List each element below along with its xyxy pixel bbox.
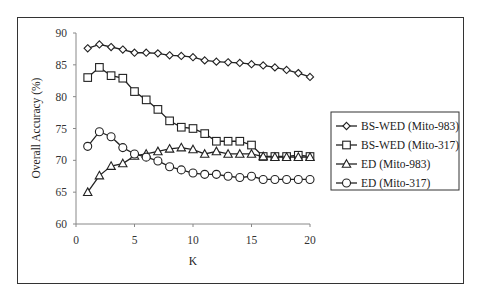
legend-label: ED (Mito-983) xyxy=(361,158,430,171)
circle-marker xyxy=(224,172,232,180)
circle-marker xyxy=(142,153,150,161)
diamond-marker xyxy=(213,58,220,65)
diamond-marker xyxy=(131,49,138,56)
series-circle xyxy=(84,128,314,184)
square-marker xyxy=(213,137,221,145)
y-tick-label: 60 xyxy=(56,218,68,230)
diamond-marker xyxy=(119,46,126,53)
x-tick-label: 15 xyxy=(246,234,258,246)
legend-label: ED (Mito-317) xyxy=(361,177,430,190)
square-marker xyxy=(131,88,139,96)
diamond-marker xyxy=(283,66,290,73)
circle-marker xyxy=(166,163,174,171)
diamond-marker xyxy=(96,41,103,48)
circle-marker xyxy=(177,166,185,174)
diamond-marker xyxy=(236,59,243,66)
circle-marker xyxy=(248,172,256,180)
diamond-marker xyxy=(248,61,255,68)
diamond-marker xyxy=(189,54,196,61)
x-tick-label: 20 xyxy=(304,234,316,246)
diamond-marker xyxy=(84,45,91,52)
axes: 6065707580859005101520 xyxy=(56,27,317,246)
square-marker xyxy=(107,72,115,80)
legend-label: BS-WED (Mito-983) xyxy=(361,120,459,133)
square-marker xyxy=(154,106,162,114)
diamond-marker xyxy=(260,62,267,69)
diamond-marker xyxy=(108,43,115,50)
circle-marker xyxy=(95,128,103,136)
circle-marker xyxy=(119,144,127,152)
square-marker xyxy=(189,125,197,133)
y-tick-label: 80 xyxy=(56,91,68,103)
circle-marker xyxy=(201,170,209,178)
legend-label: BS-WED (Mito-317) xyxy=(361,139,459,152)
x-tick-label: 5 xyxy=(132,234,138,246)
circle-marker xyxy=(154,157,162,165)
x-tick-label: 10 xyxy=(187,234,199,246)
circle-marker xyxy=(84,142,92,150)
series-triangle xyxy=(84,143,315,195)
y-tick-label: 90 xyxy=(56,27,68,39)
diamond-marker xyxy=(166,52,173,59)
circle-marker xyxy=(236,174,244,182)
square-marker xyxy=(236,137,244,145)
square-marker xyxy=(166,117,174,125)
circle-marker xyxy=(259,175,267,183)
y-tick-label: 75 xyxy=(56,123,68,135)
triangle-marker xyxy=(119,159,127,167)
diamond-marker xyxy=(225,59,232,66)
diamond-marker xyxy=(295,70,302,77)
line-chart: 6065707580859005101520 K Overall Accurac… xyxy=(0,0,477,302)
y-axis-title: Overall Accuracy (%) xyxy=(30,77,43,178)
square-marker xyxy=(96,64,104,72)
diamond-marker xyxy=(178,52,185,59)
diamond-marker xyxy=(271,64,278,71)
diamond-marker xyxy=(201,57,208,64)
circle-marker xyxy=(131,150,139,158)
circle-marker xyxy=(212,170,220,178)
square-marker xyxy=(119,74,127,82)
legend: BS-WED (Mito-983)BS-WED (Mito-317)ED (Mi… xyxy=(331,112,459,190)
y-tick-label: 70 xyxy=(56,154,68,166)
plot-area xyxy=(84,41,315,196)
circle-marker xyxy=(271,175,279,183)
square-marker xyxy=(142,96,150,104)
circle-marker xyxy=(306,175,314,183)
square-marker xyxy=(248,141,256,149)
diamond-marker xyxy=(143,49,150,56)
square-marker xyxy=(201,130,209,138)
triangle-marker xyxy=(212,147,220,155)
square-marker xyxy=(84,74,92,82)
square-marker xyxy=(178,123,186,131)
y-tick-label: 85 xyxy=(56,59,68,71)
square-marker xyxy=(224,137,232,145)
x-axis-title: K xyxy=(189,255,198,267)
square-icon xyxy=(343,141,351,149)
diamond-marker xyxy=(306,73,313,80)
circle-marker xyxy=(283,175,291,183)
circle-marker xyxy=(294,175,302,183)
series-square xyxy=(84,64,314,161)
y-tick-label: 65 xyxy=(56,186,68,198)
x-tick-label: 0 xyxy=(73,234,79,246)
diamond-marker xyxy=(154,50,161,57)
circle-marker xyxy=(189,169,197,177)
circle-marker xyxy=(107,133,115,141)
triangle-marker xyxy=(177,143,185,151)
circle-icon xyxy=(343,179,351,187)
